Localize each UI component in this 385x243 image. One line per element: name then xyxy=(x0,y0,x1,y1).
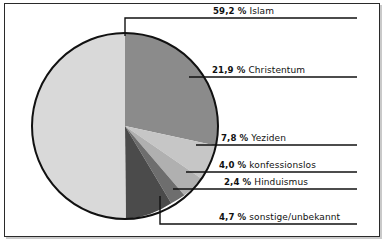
callout-sonstige-unbekannt: 4,7 %sonstige/unbekannt xyxy=(219,212,340,222)
callout-islam-pct: 59,2 % xyxy=(213,6,246,16)
callout-islam: 59,2 %Islam xyxy=(213,6,274,16)
callout-christentum-pct: 21,9 % xyxy=(212,65,245,75)
pie-chart-figure: 59,2 %Islam 21,9 %Christentum 7,8 %Yezid… xyxy=(0,0,385,243)
leader-islam xyxy=(125,18,357,36)
pie-plot xyxy=(0,0,385,243)
callout-hinduismus: 2,4 %Hinduismus xyxy=(224,177,308,187)
callout-konfessionslos-name: konfessionslos xyxy=(246,160,316,170)
callout-yeziden-name: Yeziden xyxy=(248,133,286,143)
callout-christentum: 21,9 %Christentum xyxy=(212,65,305,75)
callout-islam-name: Islam xyxy=(246,6,274,16)
callout-konfessionslos: 4,0 %konfessionslos xyxy=(219,160,316,170)
callout-hinduismus-name: Hinduismus xyxy=(251,177,308,187)
callout-sonstige-name: sonstige/unbekannt xyxy=(246,212,340,222)
slice-islam[interactable] xyxy=(32,33,125,219)
callout-konfessionslos-pct: 4,0 % xyxy=(219,160,246,170)
callout-yeziden-pct: 7,8 % xyxy=(221,133,248,143)
callout-christentum-name: Christentum xyxy=(245,65,305,75)
callout-yeziden: 7,8 %Yeziden xyxy=(221,133,286,143)
slice-christentum[interactable] xyxy=(125,33,218,146)
callout-hinduismus-pct: 2,4 % xyxy=(224,177,251,187)
callout-sonstige-pct: 4,7 % xyxy=(219,212,246,222)
